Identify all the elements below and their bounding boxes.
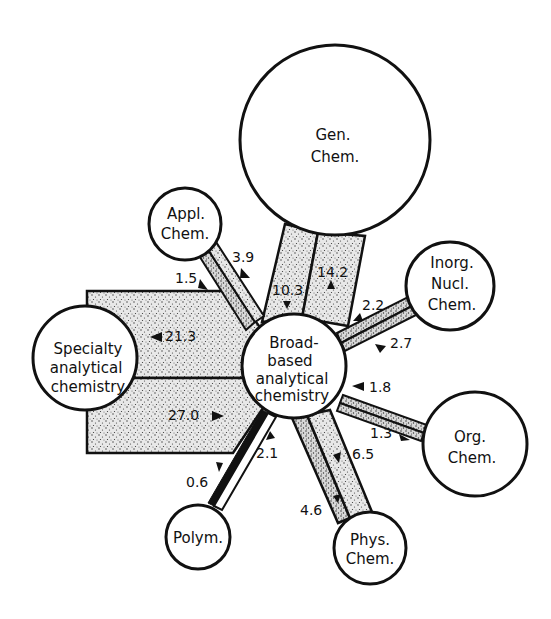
node-label: Chem. — [428, 296, 477, 314]
value-spec-in: 21.3 — [165, 328, 196, 344]
value-org-in: 1.3 — [370, 425, 392, 441]
arrow-icon — [353, 313, 363, 321]
value-spec-out: 27.0 — [168, 407, 199, 423]
flow-diagram: Gen. Chem. Appl. Chem. Inorg. Nucl. Chem… — [0, 0, 551, 619]
value-polym-out: 0.6 — [186, 474, 208, 490]
value-phys-in: 6.5 — [352, 446, 374, 462]
node-label: chemistry — [255, 387, 330, 405]
value-org-out: 1.8 — [369, 379, 391, 395]
node-label: Appl. — [167, 205, 205, 223]
arrow-icon — [375, 344, 386, 353]
node-gen-chem: Gen. Chem. — [240, 45, 430, 235]
node-label: Phys. — [350, 531, 390, 549]
node-label: Chem. — [346, 550, 395, 568]
node-label: based — [267, 352, 312, 370]
node-label: Inorg. — [430, 254, 473, 272]
node-inorg-nucl-chem: Inorg. Nucl. Chem. — [406, 242, 494, 330]
node-specialty-analytical: Specialty analytical chemistry — [33, 306, 137, 410]
node-label: Broad- — [269, 334, 318, 352]
value-inorg-out: 2.2 — [362, 297, 384, 313]
node-polym: Polym. — [166, 505, 230, 569]
arrow-left-icon — [352, 382, 364, 391]
node-label: analytical — [256, 370, 329, 388]
node-label: Polym. — [173, 529, 223, 547]
node-broad-based-analytical: Broad- based analytical chemistry — [242, 314, 346, 418]
node-label: Chem. — [448, 449, 497, 467]
value-inorg-in: 2.7 — [390, 335, 412, 351]
node-label: analytical — [50, 359, 123, 377]
node-phys-chem: Phys. Chem. — [334, 512, 406, 584]
node-label: Nucl. — [431, 275, 469, 293]
node-label: Chem. — [311, 148, 360, 166]
value-gen-out: 14.2 — [317, 264, 348, 280]
value-phys-out: 4.6 — [300, 502, 322, 518]
arrow-icon — [198, 279, 208, 290]
node-label: Gen. — [315, 126, 350, 144]
node-label: Chem. — [161, 225, 210, 243]
arrow-icon — [240, 268, 250, 278]
value-appl-out: 3.9 — [232, 249, 254, 265]
value-appl-in: 1.5 — [175, 270, 197, 286]
node-label: Org. — [454, 428, 486, 446]
node-appl-chem: Appl. Chem. — [149, 188, 221, 260]
value-gen-in: 10.3 — [272, 282, 303, 298]
node-label: chemistry — [51, 378, 126, 396]
diagram-svg: Gen. Chem. Appl. Chem. Inorg. Nucl. Chem… — [0, 0, 551, 619]
gen-flow-band — [262, 224, 365, 326]
node-label: Specialty — [54, 340, 123, 358]
value-polym-in: 2.1 — [256, 445, 278, 461]
arrow-icon — [216, 462, 223, 472]
node-org-chem: Org. Chem. — [423, 392, 527, 496]
